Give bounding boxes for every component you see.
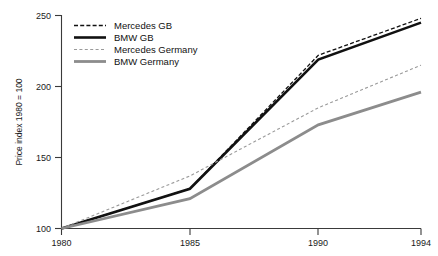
y-axis-title: Price index 1980 = 100 [14,78,24,165]
y-tick-label-250: 250 [36,11,51,21]
legend-label-bmw-gb: BMW GB [114,32,154,43]
legend-label-mercedes-gb: Mercedes GB [114,20,172,31]
y-tick-label-150: 150 [36,153,51,163]
plot-background [0,0,438,256]
x-tick-label-1985: 1985 [180,238,200,248]
legend-label-bmw-germany: BMW Germany [114,56,179,67]
x-tick-label-1990: 1990 [308,238,328,248]
chart-container: 250 200 150 100 Price index 1980 = 100 1… [0,0,438,256]
y-tick-label-100: 100 [36,224,51,234]
legend-label-mercedes-germany: Mercedes Germany [114,44,198,55]
x-tick-label-1980: 1980 [51,238,71,248]
y-tick-label-200: 200 [36,82,51,92]
line-chart: 250 200 150 100 Price index 1980 = 100 1… [0,0,438,256]
x-tick-label-1994: 1994 [411,238,431,248]
